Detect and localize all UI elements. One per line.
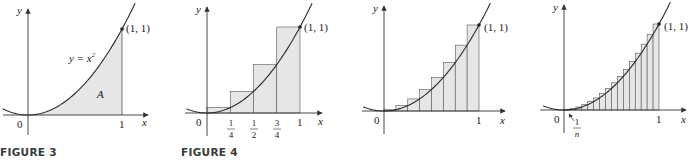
riemann-rectangle [612,83,618,110]
fraction-tick-three-quarters: 3 4 [273,118,281,140]
svg-text:1: 1 [575,117,580,127]
origin-label: 0 [554,113,560,125]
y-axis-label: y [372,2,378,14]
svg-text:4: 4 [229,130,234,140]
riemann-rectangle [635,53,641,110]
point-1-1 [298,25,302,29]
point-label: (1, 1) [484,21,508,34]
riemann-rectangle [653,24,659,110]
point-label: (1, 1) [126,22,150,35]
svg-text:4: 4 [275,130,280,140]
svg-text:2: 2 [252,130,257,140]
point-1-1 [120,27,124,31]
point-1-1 [477,23,481,27]
svg-text:n: n [575,129,580,139]
svg-text:3: 3 [275,118,280,128]
point-label: (1, 1) [664,20,688,33]
riemann-rectangle [641,44,647,110]
x-axis-label: x [499,114,505,126]
fraction-tick-quarter: 1 4 [227,118,235,140]
x-axis-label: x [141,116,147,128]
x-axis-label: x [317,115,323,127]
riemann-rectangle [432,77,444,111]
width-pointer-arrow [569,114,574,121]
riemann-rectangles-n16 [564,24,659,110]
fraction-tick-half: 1 2 [250,118,258,140]
y-axis-label: y [552,1,558,13]
riemann-n8-panel: y x 0 1 (1, 1) [362,2,508,134]
x-tick-1-label: 1 [297,116,303,128]
y-axis-label: y [16,4,22,16]
curve-equation-label: y = x2 [68,51,96,64]
origin-label: 0 [17,118,23,130]
riemann-rectangles-n8 [384,25,479,111]
svg-text:1: 1 [252,118,257,128]
riemann-rectangle [420,90,432,112]
point-1-1 [657,22,661,26]
figure-3-caption: FIGURE 3 [0,146,57,158]
figure-4-caption: FIGURE 4 [181,146,238,158]
riemann-n16-panel: y x 0 1 (1, 1) 1 n [540,1,688,139]
x-tick-1-label: 1 [476,114,482,126]
figure-canvas: y x 0 1 (1, 1) y = x2 A FIGURE 3 y x 0 1… [0,0,691,161]
origin-label: 0 [196,116,202,128]
x-tick-1-label: 1 [656,113,662,125]
point-label: (1, 1) [304,21,328,34]
y-axis-label: y [195,3,201,15]
figure-3-panel: y x 0 1 (1, 1) y = x2 A FIGURE 3 [0,3,150,158]
region-a-label: A [96,88,104,100]
svg-text:1: 1 [229,118,234,128]
width-label-one-over-n: 1 n [573,117,581,139]
area-region-a [28,29,122,115]
riemann-rectangle [467,25,479,111]
riemann-rectangle [647,34,653,110]
origin-label: 0 [374,114,380,126]
x-tick-1-label: 1 [119,118,125,130]
x-axis-label: x [680,113,686,125]
riemann-rectangles-n4 [207,27,300,113]
figure-4-panel: y x 0 1 (1, 1) 1 4 1 2 3 4 FIGURE 4 [181,3,328,158]
riemann-rectangle [277,27,300,113]
